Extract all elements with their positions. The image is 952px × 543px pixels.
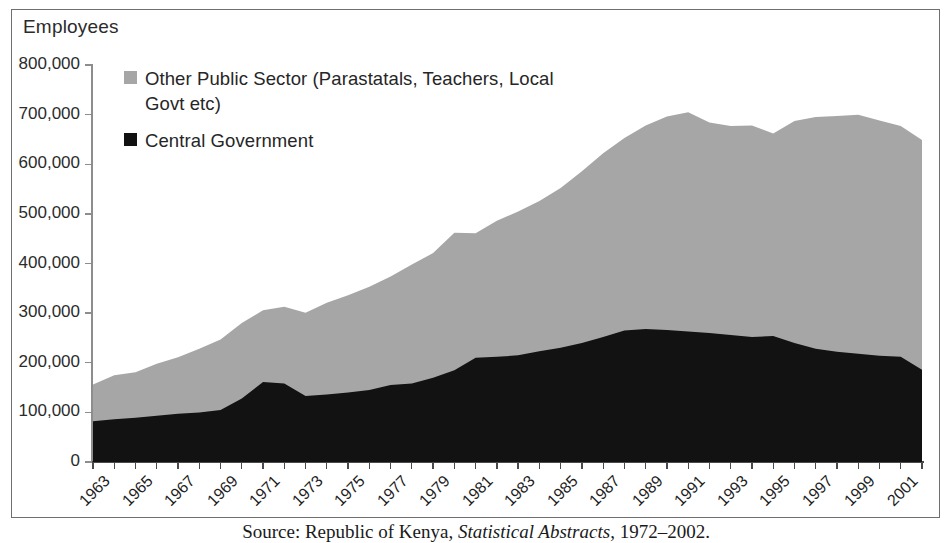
- x-tick-mark: [284, 462, 285, 469]
- y-tick-label: 600,000: [0, 153, 80, 173]
- x-tick-mark: [475, 462, 476, 469]
- y-tick-label: 100,000: [0, 401, 80, 421]
- x-tick-mark: [390, 462, 391, 469]
- x-tick-mark: [326, 462, 327, 469]
- x-tick-mark: [369, 462, 370, 469]
- x-tick-mark: [411, 462, 412, 469]
- source-caption-prefix: Source: Republic of Kenya,: [242, 521, 458, 542]
- y-tick-mark: [85, 461, 92, 462]
- y-tick-label: 700,000: [0, 104, 80, 124]
- x-tick-mark: [199, 462, 200, 469]
- y-tick-label: 400,000: [0, 253, 80, 273]
- legend-spacer: [124, 118, 594, 128]
- x-tick-mark: [900, 462, 901, 469]
- legend-item-central-government: Central Government: [124, 128, 594, 153]
- y-tick-mark: [85, 362, 92, 363]
- y-tick-mark: [85, 263, 92, 264]
- y-tick-mark: [85, 412, 92, 413]
- x-tick-mark: [262, 462, 263, 469]
- x-tick-mark: [347, 462, 348, 469]
- x-tick-mark: [645, 462, 646, 469]
- x-tick-mark: [496, 462, 497, 469]
- y-tick-label: 0: [0, 451, 80, 471]
- y-tick-label: 500,000: [0, 203, 80, 223]
- x-tick-mark: [836, 462, 837, 469]
- x-tick-mark: [432, 462, 433, 469]
- x-tick-mark: [539, 462, 540, 469]
- x-tick-mark: [560, 462, 561, 469]
- x-tick-mark: [709, 462, 710, 469]
- source-caption: Source: Republic of Kenya, Statistical A…: [0, 521, 952, 543]
- legend-swatch-other-public-sector: [124, 71, 137, 84]
- x-tick-mark: [624, 462, 625, 469]
- x-tick-mark: [603, 462, 604, 469]
- y-tick-mark: [85, 64, 92, 65]
- y-tick-mark: [85, 114, 92, 115]
- x-tick-mark: [581, 462, 582, 469]
- source-caption-title: Statistical Abstracts: [458, 521, 610, 542]
- legend-label-central-government: Central Government: [145, 128, 313, 153]
- y-tick-label: 800,000: [0, 54, 80, 74]
- legend-label-other-public-sector: Other Public Sector (Parastatals, Teache…: [145, 66, 594, 116]
- x-tick-mark: [177, 462, 178, 469]
- y-tick-mark: [85, 164, 92, 165]
- x-tick-mark: [751, 462, 752, 469]
- x-tick-mark: [666, 462, 667, 469]
- y-tick-label: 300,000: [0, 302, 80, 322]
- x-tick-mark: [156, 462, 157, 469]
- x-tick-mark: [517, 462, 518, 469]
- y-tick-mark: [85, 213, 92, 214]
- y-tick-label: 200,000: [0, 352, 80, 372]
- x-tick-mark: [815, 462, 816, 469]
- legend-item-other-public-sector: Other Public Sector (Parastatals, Teache…: [124, 66, 594, 116]
- x-tick-mark: [688, 462, 689, 469]
- x-tick-mark: [220, 462, 221, 469]
- legend-swatch-central-government: [124, 133, 137, 146]
- x-tick-mark: [454, 462, 455, 469]
- x-tick-mark: [879, 462, 880, 469]
- source-caption-suffix: , 1972–2002.: [610, 521, 710, 542]
- x-tick-mark: [135, 462, 136, 469]
- x-tick-mark: [794, 462, 795, 469]
- x-tick-mark: [241, 462, 242, 469]
- chart-legend: Other Public Sector (Parastatals, Teache…: [124, 66, 594, 155]
- x-tick-mark: [730, 462, 731, 469]
- x-tick-mark: [92, 462, 93, 469]
- x-tick-mark: [305, 462, 306, 469]
- y-tick-mark: [85, 312, 92, 313]
- x-tick-mark: [858, 462, 859, 469]
- x-tick-mark: [921, 462, 922, 469]
- x-tick-mark: [773, 462, 774, 469]
- y-axis-ticks: 0100,000200,000300,000400,000500,000600,…: [0, 0, 92, 536]
- x-tick-mark: [114, 462, 115, 469]
